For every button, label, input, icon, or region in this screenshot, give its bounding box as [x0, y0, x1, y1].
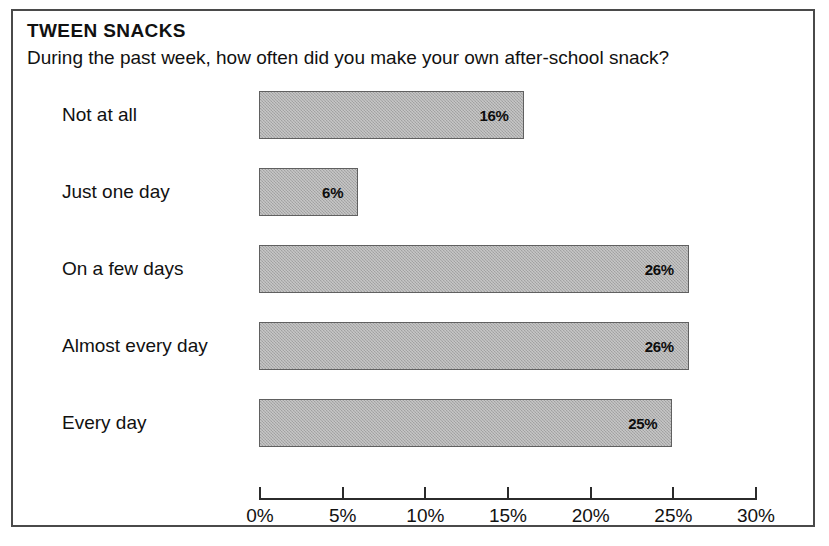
category-label: Not at all	[62, 91, 137, 139]
category-label: Almost every day	[62, 322, 208, 370]
x-axis: 0%5%10%15%20%25%30%	[13, 487, 817, 546]
x-axis-tick-label: 10%	[406, 505, 444, 527]
x-axis-tick	[672, 487, 674, 498]
x-axis-tick-label: 30%	[737, 505, 775, 527]
bar[interactable]: 16%	[259, 91, 524, 139]
bar[interactable]: 6%	[259, 168, 358, 216]
bar[interactable]: 25%	[259, 399, 672, 447]
category-label: Just one day	[62, 168, 170, 216]
bar-value-label: 25%	[628, 400, 657, 448]
x-axis-tick-label: 25%	[654, 505, 692, 527]
bar-row: Just one day6%	[13, 168, 817, 216]
bar-value-label: 16%	[479, 92, 508, 140]
bar-value-label: 26%	[645, 323, 674, 371]
x-axis-tick-label: 0%	[246, 505, 273, 527]
category-label: On a few days	[62, 245, 183, 293]
bar[interactable]: 26%	[259, 245, 689, 293]
plot-area: Not at all16%Just one day6%On a few days…	[13, 11, 817, 529]
chart-figure: TWEEN SNACKS During the past week, how o…	[0, 0, 829, 546]
x-axis-line	[259, 498, 757, 500]
x-axis-tick-label: 5%	[329, 505, 356, 527]
category-label: Every day	[62, 399, 146, 447]
bar-row: Almost every day26%	[13, 322, 817, 370]
bar[interactable]: 26%	[259, 322, 689, 370]
x-axis-tick	[342, 487, 344, 498]
x-axis-tick-label: 20%	[572, 505, 610, 527]
chart-frame: TWEEN SNACKS During the past week, how o…	[11, 9, 815, 527]
x-axis-tick	[259, 487, 261, 498]
bar-value-label: 6%	[322, 169, 343, 217]
bar-row: On a few days26%	[13, 245, 817, 293]
x-axis-tick	[424, 487, 426, 498]
bar-row: Not at all16%	[13, 91, 817, 139]
x-axis-tick	[590, 487, 592, 498]
x-axis-tick	[755, 487, 757, 498]
x-axis-tick	[507, 487, 509, 498]
bar-value-label: 26%	[645, 246, 674, 294]
bar-row: Every day25%	[13, 399, 817, 447]
x-axis-tick-label: 15%	[489, 505, 527, 527]
